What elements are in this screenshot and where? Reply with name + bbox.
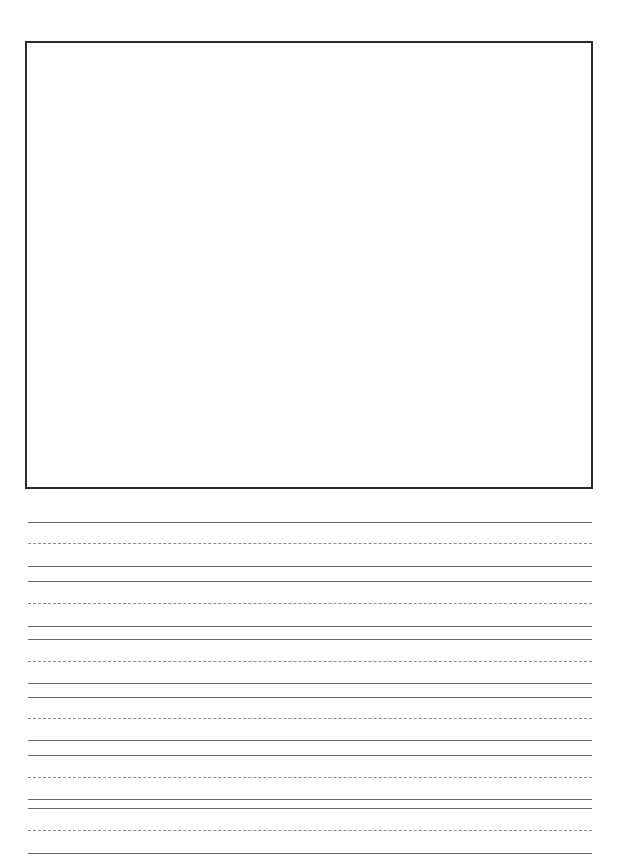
midline-dashed — [28, 777, 592, 778]
baseline-solid — [28, 799, 592, 800]
baseline-solid — [28, 853, 592, 854]
baseline-solid — [28, 697, 592, 698]
midline-dashed — [28, 603, 592, 604]
baseline-solid — [28, 683, 592, 684]
baseline-solid — [28, 808, 592, 809]
baseline-solid — [28, 522, 592, 523]
baseline-solid — [28, 626, 592, 627]
baseline-solid — [28, 566, 592, 567]
baseline-solid — [28, 581, 592, 582]
baseline-solid — [28, 755, 592, 756]
midline-dashed — [28, 661, 592, 662]
drawing-box — [25, 41, 593, 489]
baseline-solid — [28, 639, 592, 640]
midline-dashed — [28, 830, 592, 831]
midline-dashed — [28, 543, 592, 544]
midline-dashed — [28, 718, 592, 719]
baseline-solid — [28, 740, 592, 741]
